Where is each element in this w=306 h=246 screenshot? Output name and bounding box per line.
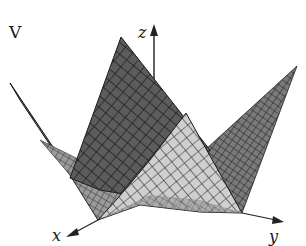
x-axis-label: x (52, 226, 61, 245)
x-axis (66, 220, 98, 237)
y-axis (242, 213, 284, 224)
surface-label-v: V (8, 22, 22, 42)
z-axis-label: z (137, 23, 147, 42)
surface-plot: V z x y (0, 0, 306, 246)
y-axis-label: y (268, 227, 279, 246)
